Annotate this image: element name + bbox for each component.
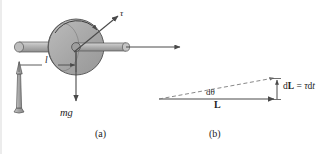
dL-dt-t: t (312, 81, 315, 91)
torque-label: τ (120, 9, 123, 18)
panel-a-caption: (a) (95, 129, 106, 139)
dL-equals: = (294, 81, 304, 91)
L-plus-dL-dashed-arrow (159, 78, 274, 99)
dtheta-label: dθ (206, 88, 215, 97)
dL-vector-arrow (273, 79, 282, 100)
figure-canvas (0, 0, 329, 154)
lever-arm-label: l (45, 56, 48, 66)
weight-label: mg (60, 108, 73, 119)
panel-b-graphics (159, 78, 281, 100)
panel-b-caption: (b) (209, 129, 221, 139)
L-vector-label: L (214, 100, 221, 110)
physics-figure: τ l mg dθ L dL = τdt (a) (b) (0, 0, 329, 154)
dL-equation-label: dL = τdt (283, 82, 315, 92)
panel-a-graphics (14, 16, 180, 113)
